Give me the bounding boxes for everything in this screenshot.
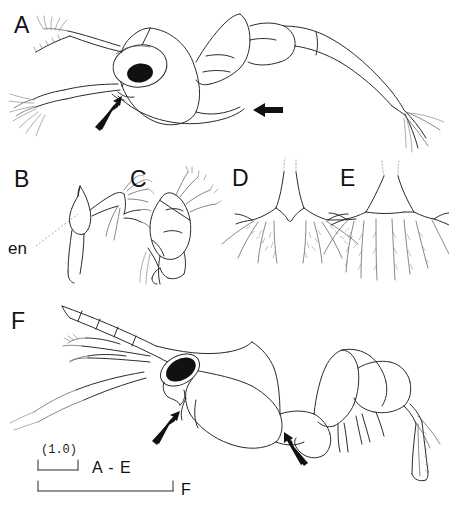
scale-unit-label: (1.0)	[41, 444, 77, 456]
figure-artwork: .s{fill:none;stroke:#2b2b2b;stroke-width…	[0, 0, 449, 510]
panel-a-pointer-1	[95, 96, 122, 131]
figure-plate: .s{fill:none;stroke:#2b2b2b;stroke-width…	[0, 0, 449, 510]
panel-a-pointer-2	[253, 103, 283, 117]
scale-bar-label-ae: A - E	[92, 460, 132, 476]
annotation-label-en: en	[8, 240, 27, 257]
panel-f-pointer-1	[152, 411, 180, 445]
panel-f-pointer-2	[284, 432, 308, 466]
panel-c-drawing	[140, 166, 221, 284]
panel-label-e: E	[340, 167, 356, 190]
panel-a-drawing	[9, 14, 444, 152]
panel-label-a: A	[14, 14, 30, 37]
panel-label-b: B	[14, 168, 30, 191]
panel-label-d: D	[232, 167, 249, 190]
panel-label-c: C	[130, 168, 147, 191]
scale-bar-ae-graphic	[38, 460, 78, 470]
scale-bar-f-graphic	[38, 481, 173, 491]
panel-label-f: F	[11, 310, 26, 333]
caption-sliver	[4, 500, 234, 509]
scale-bar-label-f: F	[181, 482, 192, 498]
